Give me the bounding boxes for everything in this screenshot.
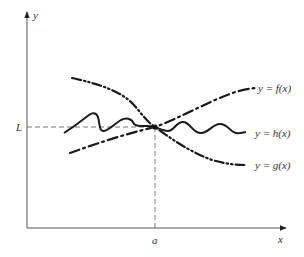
curve-labels: y = f(x) y = h(x) y = g(x) [254,82,291,172]
limit-label: L [15,121,22,133]
x-axis-label: x [277,233,283,245]
curve-f [70,88,255,153]
intersection-point [152,124,157,129]
curve-g-label: y = g(x) [254,159,291,172]
y-axis-label: y [32,9,38,21]
squeeze-theorem-diagram: y x L a y = f(x) y = h(x) y = g(x) [0,0,304,257]
point-label: a [152,234,158,246]
curve-h-label: y = h(x) [254,127,291,140]
guides: L a [15,121,158,246]
curve-f-label: y = f(x) [257,82,291,95]
